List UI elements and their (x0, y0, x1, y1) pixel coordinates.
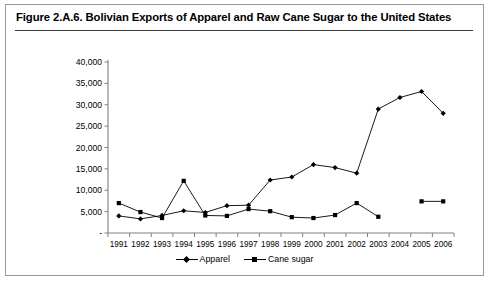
y-axis-tick-label: 20,000 (56, 143, 102, 153)
y-axis-tick-label: - (56, 228, 102, 238)
diamond-marker-icon (176, 255, 198, 263)
figure-container: Figure 2.A.6. Bolivian Exports of Appare… (5, 4, 484, 276)
chart-legend: ApparelCane sugar (6, 253, 483, 264)
x-axis-tick-label: 2005 (412, 240, 430, 249)
y-axis-tick-label: 10,000 (56, 185, 102, 195)
y-axis-tick-label: 40,000 (56, 57, 102, 67)
x-axis-tick-label: 2000 (304, 240, 322, 249)
x-axis-tick-label: 2001 (326, 240, 344, 249)
y-axis-tick-label: 35,000 (56, 78, 102, 88)
x-axis-tick-label: 1995 (196, 240, 214, 249)
legend-item[interactable]: Cane sugar (244, 253, 313, 264)
legend-label: Cane sugar (268, 254, 313, 264)
y-axis-tick-label: 30,000 (56, 100, 102, 110)
x-axis-tick-label: 2006 (434, 240, 452, 249)
x-axis-tick-label: 1999 (283, 240, 301, 249)
y-axis-tick-label: 25,000 (56, 121, 102, 131)
x-axis-tick-label: 2003 (369, 240, 387, 249)
legend-item[interactable]: Apparel (176, 253, 230, 264)
x-axis-tick-label: 1994 (175, 240, 193, 249)
x-axis-tick-label: 1993 (153, 240, 171, 249)
chart-svg (6, 35, 483, 275)
x-axis-tick-label: 1992 (131, 240, 149, 249)
y-axis-tick-label: 15,000 (56, 164, 102, 174)
square-marker-icon (244, 255, 266, 263)
x-axis-tick-label: 1996 (218, 240, 236, 249)
y-axis-tick-label: 5,000 (56, 207, 102, 217)
chart-plot-area: -5,00010,00015,00020,00025,00030,00035,0… (6, 35, 483, 275)
title-divider (15, 30, 473, 31)
x-axis-tick-label: 1998 (261, 240, 279, 249)
figure-title: Figure 2.A.6. Bolivian Exports of Appare… (16, 11, 471, 23)
x-axis-tick-label: 2004 (391, 240, 409, 249)
x-axis-tick-label: 2002 (348, 240, 366, 249)
x-axis-tick-label: 1991 (110, 240, 128, 249)
x-axis-tick-label: 1997 (239, 240, 257, 249)
legend-label: Apparel (200, 254, 230, 264)
